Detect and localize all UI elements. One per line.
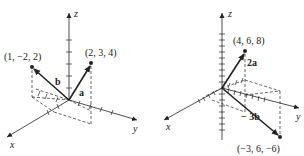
left-point-2 [89, 61, 93, 65]
right-y-label: y [295, 111, 301, 122]
right-vector-2a-label: 2a [247, 57, 257, 68]
right-point-2 [278, 135, 282, 139]
right-vector-2a [222, 54, 244, 88]
right-point-1 [243, 49, 247, 53]
right-x-axis [164, 88, 222, 120]
left-vector-b-label: b [55, 76, 61, 87]
left-point-2-label: (2, 3, 4) [85, 47, 117, 59]
right-x-label: x [165, 121, 171, 132]
right-vector-neg3b-label: − 3b [241, 111, 260, 122]
right-z-label: z [227, 8, 232, 19]
left-z-label: z [73, 8, 78, 19]
left-x-axis [7, 100, 69, 137]
left-x-label: x [9, 139, 15, 150]
left-point-1-label: (1, −2, 2) [4, 51, 41, 63]
right-point-1-label: (4, 6, 8) [233, 35, 265, 47]
left-vector-a-label: a [79, 87, 84, 98]
left-vector-b [34, 69, 69, 100]
right-point-2-label: (−3, 6, −6) [237, 143, 280, 155]
right-projection-dashes [206, 54, 280, 134]
right-diagram: z x y (4, 6, 8) (−3, 6, −6) 2a − 3b [164, 8, 301, 155]
left-y-label: y [132, 123, 138, 134]
left-diagram: z x y (1, −2, 2) (2, 3, 4) b a [4, 8, 138, 150]
left-point-1 [30, 65, 34, 69]
vector-diagram: z x y (1, −2, 2) (2, 3, 4) b a [0, 0, 304, 156]
